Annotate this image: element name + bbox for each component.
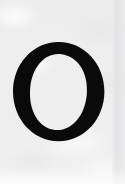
- glyph-layer: [0, 0, 125, 184]
- letter-specimen-canvas: O: [0, 0, 125, 184]
- capital-letter-o-glyph: [0, 0, 125, 184]
- glyph-bowl: [13, 42, 104, 141]
